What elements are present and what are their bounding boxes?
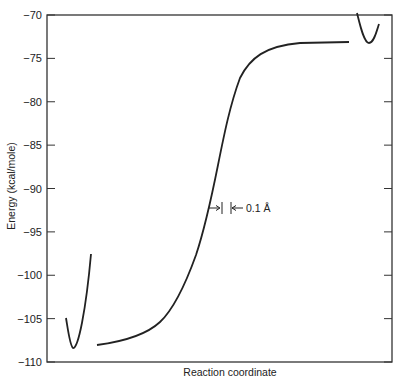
- x-axis-label: Reaction coordinate: [130, 366, 330, 378]
- y-tick-label: −110: [6, 356, 42, 368]
- y-tick-label: −70: [6, 9, 42, 21]
- scale-annotation: 0.1 Å: [246, 202, 271, 214]
- y-axis-label: Energy (kcal/mole): [5, 131, 17, 241]
- y-tick-label: −80: [6, 96, 42, 108]
- plot-frame: [47, 15, 392, 362]
- y-tick-label: −75: [6, 52, 42, 64]
- energy-plot: [0, 0, 401, 379]
- y-tick-label: −100: [6, 269, 42, 281]
- y-ticks: [47, 15, 392, 362]
- y-tick-label: −105: [6, 313, 42, 325]
- left-well-curve: [66, 254, 91, 348]
- scale-bar: [209, 202, 243, 214]
- right-well-curve: [357, 13, 379, 43]
- main-energy-curve: [97, 42, 349, 345]
